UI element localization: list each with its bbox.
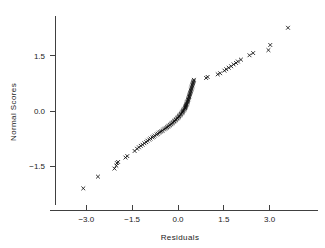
- x-tick-label: −3.0: [78, 215, 94, 224]
- x-axis-title: Residuals: [161, 233, 200, 242]
- plot-canvas: −3.0−1.50.01.53.0 −1.50.01.5 Residuals N…: [0, 0, 325, 248]
- x-tick-label: 3.0: [264, 215, 276, 224]
- y-tick-label: 0.0: [34, 107, 46, 116]
- x-tick-label: 0.0: [172, 215, 184, 224]
- x-tick-label: 1.5: [218, 215, 230, 224]
- scatter-plot-figure: −3.0−1.50.01.53.0 −1.50.01.5 Residuals N…: [0, 0, 325, 248]
- x-tick-label: −1.5: [124, 215, 140, 224]
- plot-background: [0, 0, 325, 248]
- y-axis-title: Normal Scores: [9, 83, 18, 141]
- y-tick-label: −1.5: [29, 162, 45, 171]
- y-tick-label: 1.5: [34, 52, 46, 61]
